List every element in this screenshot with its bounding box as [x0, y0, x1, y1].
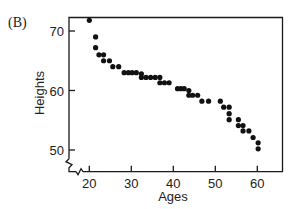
- data-point: [162, 80, 167, 85]
- data-point: [148, 75, 153, 80]
- data-point: [93, 45, 98, 50]
- data-point: [96, 52, 101, 57]
- data-point: [240, 123, 245, 128]
- data-point: [246, 128, 251, 133]
- data-point: [167, 80, 172, 85]
- data-point: [195, 93, 200, 98]
- data-point: [87, 18, 92, 23]
- data-point: [256, 146, 261, 151]
- data-point: [101, 58, 106, 63]
- data-point: [157, 80, 162, 85]
- y-axis-ticks: 506070: [50, 24, 75, 158]
- x-tick-label: 20: [82, 176, 96, 191]
- data-point: [236, 123, 241, 128]
- data-point: [199, 99, 204, 104]
- data-point: [153, 75, 158, 80]
- y-tick-label: 60: [50, 84, 64, 99]
- data-point: [186, 88, 191, 93]
- data-point: [101, 52, 106, 57]
- x-tick-label: 60: [250, 176, 264, 191]
- data-point: [110, 64, 115, 69]
- data-point: [218, 99, 223, 104]
- axis-break-marks: [66, 159, 83, 175]
- x-axis-label: Ages: [158, 189, 188, 204]
- data-point: [221, 105, 226, 110]
- data-point: [116, 64, 121, 69]
- y-axis-break: [66, 159, 76, 172]
- x-axis-ticks: 2030405060: [82, 166, 264, 191]
- y-axis-label: Heights: [32, 70, 47, 115]
- plot-border: [69, 18, 283, 172]
- scatter-chart: (B) 506070 2030405060 Ages Heights: [0, 0, 291, 209]
- data-points: [87, 18, 261, 152]
- x-tick-label: 30: [124, 176, 138, 191]
- panel-label: (B): [8, 15, 27, 31]
- data-point: [236, 117, 241, 122]
- data-point: [182, 86, 187, 91]
- data-point: [190, 93, 195, 98]
- data-point: [93, 34, 98, 39]
- data-point: [134, 70, 139, 75]
- data-point: [227, 105, 232, 110]
- data-point: [227, 111, 232, 116]
- data-point: [206, 99, 211, 104]
- data-point: [139, 75, 144, 80]
- plot-frame: [69, 18, 283, 172]
- y-tick-label: 70: [50, 24, 64, 39]
- data-point: [256, 140, 261, 145]
- data-point: [251, 135, 256, 140]
- data-point: [240, 128, 245, 133]
- data-point: [157, 75, 162, 80]
- x-axis-break: [76, 169, 83, 175]
- data-point: [143, 75, 148, 80]
- data-point: [107, 58, 112, 63]
- data-point: [227, 117, 232, 122]
- x-tick-label: 50: [208, 176, 222, 191]
- y-tick-label: 50: [50, 143, 64, 158]
